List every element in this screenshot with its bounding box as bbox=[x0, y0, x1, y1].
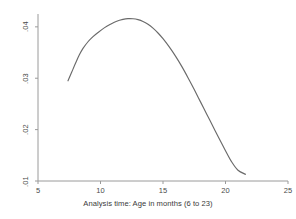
chart-figure: .01.02.03.04 510152025 Analysis time: Ag… bbox=[0, 0, 296, 219]
x-tick-label: 10 bbox=[91, 186, 111, 195]
y-tick-label: .04 bbox=[21, 17, 30, 37]
y-tick-label: .03 bbox=[21, 68, 30, 88]
x-tick-label: 15 bbox=[153, 186, 173, 195]
x-tick-label: 20 bbox=[216, 186, 236, 195]
y-tick-label: .02 bbox=[21, 120, 30, 140]
x-axis-title: Analysis time: Age in months (6 to 23) bbox=[0, 199, 296, 208]
x-tick-label: 5 bbox=[28, 186, 48, 195]
data-series-line bbox=[68, 19, 246, 175]
x-tick-label: 25 bbox=[278, 186, 296, 195]
